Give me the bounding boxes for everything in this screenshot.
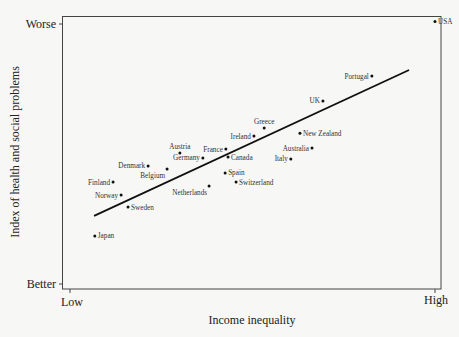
data-point-label: Ireland: [231, 133, 252, 141]
data-point-label: Portugal: [344, 73, 368, 81]
x-tick-label-high: High: [424, 293, 448, 307]
data-point: [310, 147, 313, 150]
data-point-label: Denmark: [118, 162, 145, 170]
data-point-label: Belgium: [140, 172, 165, 180]
data-point-label: UK: [310, 97, 321, 105]
data-point: [434, 20, 437, 23]
data-point: [224, 148, 227, 151]
data-point: [127, 206, 130, 209]
data-point-label: Spain: [228, 169, 245, 177]
data-point-label: France: [203, 146, 223, 154]
y-tick-label-worse: Worse: [26, 17, 56, 31]
data-point: [298, 132, 301, 135]
data-point-label: Netherlands: [172, 189, 207, 197]
scatter-chart: Worse Better Low High Income inequality …: [0, 0, 459, 337]
data-point: [147, 164, 150, 167]
x-axis-title: Income inequality: [209, 313, 296, 327]
data-point-label: Finland: [88, 179, 110, 187]
data-point-label: Greece: [254, 118, 274, 126]
data-point-label: Australia: [283, 145, 310, 153]
x-tick-label-low: Low: [61, 295, 83, 309]
data-point-label: New Zealand: [303, 130, 342, 138]
data-point: [235, 181, 238, 184]
trend-line: [94, 70, 409, 216]
data-point: [252, 135, 255, 138]
data-point: [166, 168, 169, 171]
data-point-label: Austria: [169, 143, 191, 151]
data-point-label: Italy: [275, 155, 289, 163]
data-point: [227, 156, 230, 159]
data-point: [112, 181, 115, 184]
data-point: [321, 99, 324, 102]
data-point: [120, 194, 123, 197]
data-point: [224, 171, 227, 174]
data-points: USAPortugalUKNew ZealandGreeceIrelandAus…: [88, 18, 453, 241]
data-point: [289, 157, 292, 160]
data-point-label: Germany: [173, 154, 200, 162]
data-point-label: Canada: [231, 154, 253, 162]
data-point: [370, 75, 373, 78]
data-point: [263, 127, 266, 130]
data-point-label: Norway: [95, 192, 119, 200]
data-point-label: Sweden: [131, 204, 154, 212]
y-axis-title: Index of health and social problems: [8, 66, 22, 238]
data-point: [201, 156, 204, 159]
data-point-label: Switzerland: [239, 179, 274, 187]
data-point-label: Japan: [98, 232, 115, 240]
data-point: [93, 234, 96, 237]
data-point-label: USA: [438, 18, 453, 26]
data-point: [208, 184, 211, 187]
y-tick-label-better: Better: [27, 277, 56, 291]
